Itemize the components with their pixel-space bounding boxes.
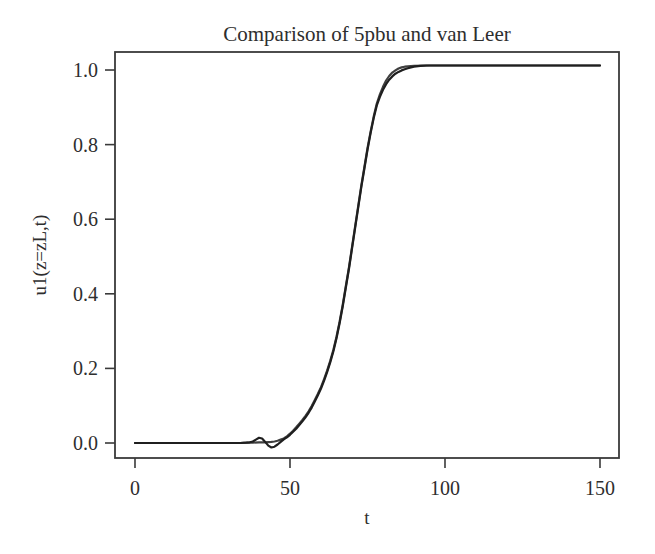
series-line-van-leer bbox=[135, 66, 600, 444]
y-tick-label: 0.4 bbox=[40, 283, 98, 305]
plot-area bbox=[0, 0, 655, 554]
y-tick-label: 0.6 bbox=[40, 208, 98, 230]
y-tick-label: 0.2 bbox=[40, 357, 98, 379]
y-tick-label: 0.0 bbox=[40, 432, 98, 454]
series-line-5pbu bbox=[135, 66, 600, 448]
figure: Comparison of 5pbu and van Leer u1(z=zL,… bbox=[0, 0, 655, 554]
y-tick-label: 0.8 bbox=[40, 134, 98, 156]
plot-frame bbox=[115, 52, 619, 458]
x-tick-label: 100 bbox=[415, 477, 475, 499]
x-tick-label: 50 bbox=[260, 477, 320, 499]
x-tick-label: 0 bbox=[105, 477, 165, 499]
x-tick-label: 150 bbox=[570, 477, 630, 499]
y-tick-label: 1.0 bbox=[40, 59, 98, 81]
